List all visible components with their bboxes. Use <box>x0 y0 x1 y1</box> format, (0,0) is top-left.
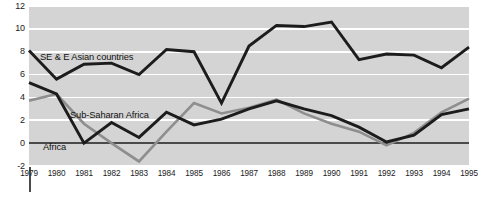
series-line <box>29 94 469 161</box>
x-tick-label: 1991 <box>350 170 368 178</box>
x-tick-label: 1992 <box>378 170 396 178</box>
y-tick-label: 0 <box>20 139 25 148</box>
x-tick-label: 1984 <box>158 170 176 178</box>
x-tick-label: 1995 <box>460 170 478 178</box>
x-tick-label: 1988 <box>268 170 286 178</box>
y-tick-label: 8 <box>20 47 25 56</box>
y-tick-label: 2 <box>20 116 25 125</box>
x-tick-label: 1983 <box>130 170 148 178</box>
x-tick-label: 1987 <box>240 170 258 178</box>
y-tick-label: 10 <box>15 24 25 33</box>
x-tick-label: 1993 <box>405 170 423 178</box>
x-tick-label: 1986 <box>213 170 231 178</box>
series-label-se-e-asian: SE & E Asian countries <box>40 52 133 62</box>
x-tick-label: 1981 <box>75 170 93 178</box>
x-tick-label: 1980 <box>48 170 66 178</box>
series-label-africa: Africa <box>43 142 66 152</box>
x-tick-label: 1994 <box>433 170 451 178</box>
series-line <box>29 22 469 103</box>
x-tick-label: 1979 <box>20 170 38 178</box>
x-tick-label: 1990 <box>323 170 341 178</box>
x-tick-label: 1985 <box>185 170 203 178</box>
plot-area <box>29 6 469 166</box>
y-tick-label: 6 <box>20 70 25 79</box>
series-label-sub-saharan-africa: Sub-Saharan Africa <box>70 110 149 120</box>
x-tick-label: 1989 <box>295 170 313 178</box>
x-tick-label: 1982 <box>103 170 121 178</box>
y-tick-label: 12 <box>15 2 25 11</box>
series-lines <box>29 6 469 166</box>
y-tick-label: 4 <box>20 93 25 102</box>
